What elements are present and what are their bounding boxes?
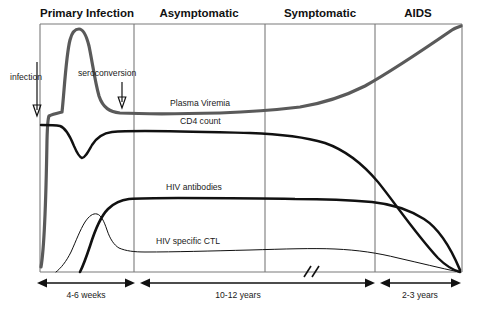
hiv-infection-course-chart: Primary Infection Asymptomatic Symptomat… [0,0,487,311]
phase-title-asymptomatic: Asymptomatic [159,7,239,19]
duration-label-primary-infection: 4-6 weeks [66,290,105,300]
curve-label-hiv-specific-ctl: HIV specific CTL [156,236,220,246]
duration-label-asymptomatic: 10-12 years [215,290,260,300]
phase-title-primary-infection: Primary Infection [40,7,134,19]
duration-label-aids: 2-3 years [402,290,438,300]
curve-label-cd4-count: CD4 count [180,116,221,126]
chart-background [0,0,487,311]
curve-label-hiv-antibodies: HIV antibodies [166,182,222,192]
curve-label-plasma-viremia: Plasma Viremia [170,98,230,108]
phase-title-aids: AIDS [404,7,432,19]
phase-title-symptomatic: Symptomatic [284,7,357,19]
annotation-label-seroconversion: seroconversion [78,68,136,78]
